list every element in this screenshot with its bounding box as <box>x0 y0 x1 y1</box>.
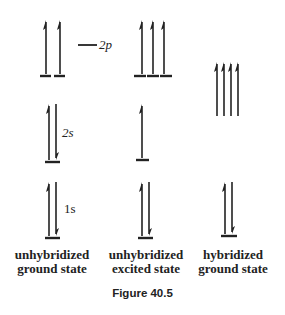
orbital-label-1s: 1s <box>64 201 76 216</box>
label-line2: ground state <box>185 262 281 276</box>
level-sp3 <box>214 62 238 116</box>
level-2s <box>45 104 60 162</box>
column-unhybridized-excited <box>134 20 172 238</box>
label-line1: unhybridized <box>4 248 100 262</box>
level-2s <box>136 104 149 160</box>
level-1s <box>138 182 153 238</box>
level-2p <box>40 20 97 76</box>
figure-caption: Figure 40.5 <box>0 287 285 299</box>
orbital-label-2s: 2s <box>62 125 74 140</box>
label-line1: unhybridized <box>98 248 194 262</box>
level-1s <box>221 182 237 236</box>
orbital-label-2p: 2p <box>99 37 113 52</box>
label-unhybridized-excited-state: unhybridized excited state <box>98 248 194 276</box>
orbital-energy-diagram: 2p 2s 1s <box>0 0 285 240</box>
label-line2: excited state <box>98 262 194 276</box>
column-hybridized-ground <box>214 62 238 236</box>
level-1s <box>45 182 60 238</box>
label-line2: ground state <box>4 262 100 276</box>
label-line1: hybridized <box>185 248 281 262</box>
level-2p <box>134 20 172 76</box>
label-unhybridized-ground-state: unhybridized ground state <box>4 248 100 276</box>
label-hybridized-ground-state: hybridized ground state <box>185 248 281 276</box>
